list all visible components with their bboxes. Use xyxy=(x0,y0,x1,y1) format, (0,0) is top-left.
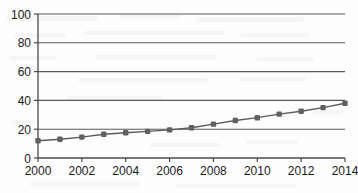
y-axis-tick-label: 100 xyxy=(11,8,31,22)
y-axis-tick-label: 80 xyxy=(18,36,32,50)
data-point-marker xyxy=(298,109,303,114)
x-axis-tick-label: 2000 xyxy=(25,164,52,178)
x-axis-tick-label: 2008 xyxy=(200,164,227,178)
data-point-marker xyxy=(35,138,40,143)
x-axis-tick-label: 2012 xyxy=(288,164,315,178)
data-point-marker xyxy=(277,111,282,116)
chart-container: 020406080100 200020022004200620082010201… xyxy=(0,0,358,193)
data-series-markers xyxy=(35,101,347,144)
data-point-marker xyxy=(342,101,347,106)
data-point-marker xyxy=(57,137,62,142)
data-point-marker xyxy=(79,134,84,139)
data-point-marker xyxy=(145,129,150,134)
data-point-marker xyxy=(211,121,216,126)
y-axis-tick-label: 60 xyxy=(18,65,32,79)
x-axis-tick-label: 2004 xyxy=(112,164,139,178)
data-point-marker xyxy=(167,127,172,132)
data-point-marker xyxy=(123,130,128,135)
data-point-marker xyxy=(255,115,260,120)
x-axis-tick-label: 2014 xyxy=(332,164,358,178)
x-axis-tick-label: 2006 xyxy=(156,164,183,178)
y-axis-tick-label: 40 xyxy=(18,94,32,108)
line-chart-plot: 020406080100 200020022004200620082010201… xyxy=(0,0,358,193)
data-point-marker xyxy=(320,105,325,110)
data-point-marker xyxy=(101,132,106,137)
y-axis-tick-label: 20 xyxy=(18,123,32,137)
data-point-marker xyxy=(233,118,238,123)
data-point-marker xyxy=(189,125,194,130)
x-axis-tick-label: 2010 xyxy=(244,164,271,178)
y-axis-tick-labels: 020406080100 xyxy=(11,8,31,166)
x-axis-tick-label: 2002 xyxy=(69,164,96,178)
x-axis-tick-labels: 20002002200420062008201020122014 xyxy=(25,164,358,178)
